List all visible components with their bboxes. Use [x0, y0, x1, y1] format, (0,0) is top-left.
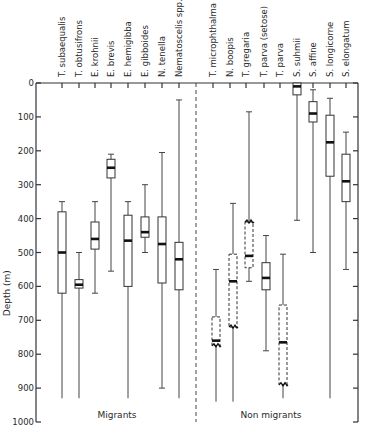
chart-canvas: 01002003004005006007008009001000Depth (m… [0, 0, 365, 427]
category-label: T. microphthalma [208, 3, 218, 78]
y-tick-label: 700 [18, 315, 34, 325]
category-label: N. boopis [225, 37, 235, 77]
box-n-tenella [158, 152, 166, 388]
y-tick-label: 400 [18, 214, 34, 224]
box-body [229, 254, 237, 327]
box-body [175, 242, 183, 289]
category-label: T. subaequalis [57, 16, 67, 78]
category-label: S. suhmii [292, 38, 302, 77]
box-t-subaequalis [58, 202, 66, 399]
category-label: Nematoscelis spp. [174, 0, 184, 77]
y-tick-label: 300 [18, 180, 34, 190]
box-body [309, 102, 317, 122]
group-labels: MigrantsNon migrants [97, 410, 301, 420]
category-label: T. parva [275, 43, 285, 78]
group-label-migrants: Migrants [97, 410, 136, 420]
y-tick-label: 100 [18, 112, 34, 122]
boxes [58, 83, 350, 402]
box-e-brevis [107, 154, 115, 271]
box-body [279, 305, 287, 385]
category-label: N. tenella [157, 36, 167, 77]
box-body [262, 263, 270, 290]
y-tick-label: 900 [18, 383, 34, 393]
y-tick-label: 0 [29, 78, 34, 88]
box-s-suhmii [293, 83, 301, 220]
box-body [141, 217, 149, 237]
y-tick-label: 800 [18, 349, 34, 359]
depth-boxplot-chart: 01002003004005006007008009001000Depth (m… [0, 0, 365, 427]
category-label: S. affine [308, 42, 318, 77]
category-label: E. hemigibba [123, 21, 133, 77]
group-label-non-migrants: Non migrants [241, 410, 302, 420]
box-body [326, 115, 334, 176]
y-tick-label: 200 [18, 146, 34, 156]
y-tick-label: 600 [18, 281, 34, 291]
box-n-boopis [229, 203, 238, 401]
category-label: E. gibboides [140, 24, 150, 77]
box-body [342, 154, 350, 201]
category-label: T. gregaria [241, 32, 251, 78]
category-label: S. elongatum [341, 20, 351, 77]
box-t-gregaria [245, 112, 254, 282]
box-t-parva [279, 254, 288, 398]
category-label: T. obtusifrons [74, 19, 84, 78]
category-label: T. parva (setose) [259, 6, 269, 78]
box-body [245, 222, 253, 268]
y-tick-label: 500 [18, 248, 34, 258]
box-s-longicorne [326, 98, 334, 398]
category-label: S. longicorne [325, 22, 335, 77]
box-e-krohnii [91, 202, 99, 294]
category-labels: T. subaequalisT. obtusifronsE. krohniiE.… [57, 0, 351, 78]
box-t-parva-setose [262, 236, 270, 351]
box-t-microphthalma [212, 269, 221, 401]
box-s-affine [309, 90, 317, 253]
category-label: E. krohnii [90, 37, 100, 77]
box-nematoscelis-spp [175, 100, 183, 398]
category-label: E. brevis [106, 40, 116, 77]
box-s-elongatum [342, 132, 350, 269]
box-t-obtusifrons [75, 253, 83, 399]
box-body [124, 215, 132, 286]
y-axis-title: Depth (m) [2, 270, 12, 316]
box-body [293, 83, 301, 95]
box-body [158, 217, 166, 283]
y-tick-label: 1000 [12, 417, 34, 427]
box-e-gibboides [141, 185, 149, 253]
box-e-hemigibba [124, 202, 132, 399]
box-body [91, 222, 99, 249]
